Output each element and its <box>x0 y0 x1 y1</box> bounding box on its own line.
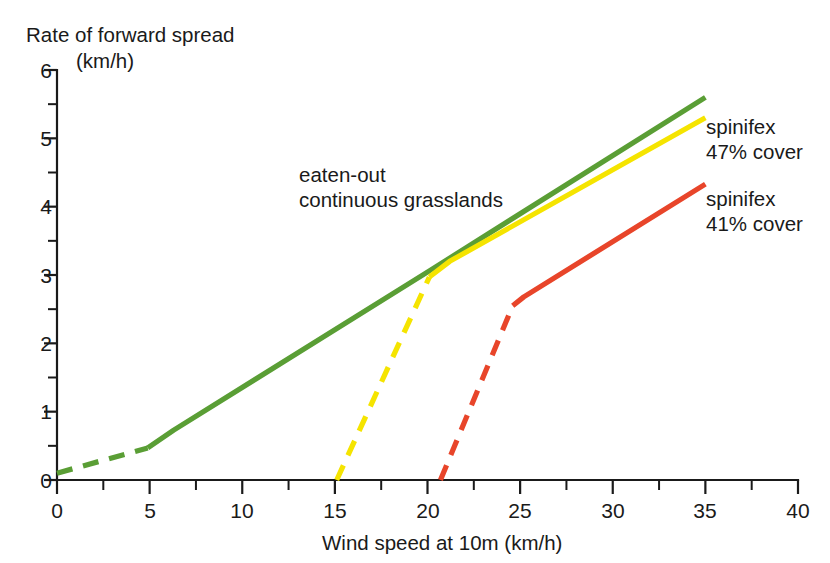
chart-figure: Rate of forward spread (km/h) 6 5 4 3 2 … <box>0 0 830 563</box>
data-series <box>57 97 705 480</box>
axis-ticks <box>44 70 798 494</box>
plot-area <box>0 0 830 563</box>
series-line-solid-eaten-out-continuous-grasslands <box>148 97 706 448</box>
series-line-dashed-spinifex-41-cover <box>440 306 512 480</box>
series-line-dashed-spinifex-47-cover <box>337 277 430 480</box>
series-line-dashed-eaten-out-continuous-grasslands <box>57 448 148 473</box>
series-line-solid-spinifex-47-cover <box>429 118 705 277</box>
